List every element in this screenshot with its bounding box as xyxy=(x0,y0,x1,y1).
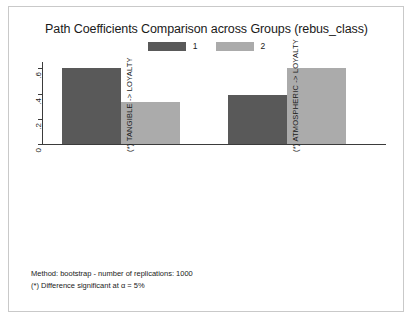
plot-area: 0.2.4.6 xyxy=(42,62,386,144)
chart-figure: Path Coefficients Comparison across Grou… xyxy=(0,0,413,319)
y-tick-label-0: 0 xyxy=(35,148,43,152)
legend-entry-2: 2 xyxy=(216,42,266,51)
y-tick-mark-1 xyxy=(38,119,42,120)
x-axis-label-group-2: (*) ATMOSPHERIC -> LOYALTY xyxy=(291,39,300,152)
y-tick-mark-2 xyxy=(38,94,42,95)
x-axis-line xyxy=(42,144,386,145)
x-axis-label-group-1: (*) TANGIBLE -> LOYALTY xyxy=(125,57,134,152)
footer-significance-line: (*) Difference significant at α = 5% xyxy=(31,280,193,292)
legend-entry-1: 1 xyxy=(148,42,198,51)
y-tick-label-3: .6 xyxy=(35,72,43,79)
legend-swatch-group-2 xyxy=(216,42,254,51)
chart-title: Path Coefficients Comparison across Grou… xyxy=(0,22,413,36)
chart-legend: 1 2 xyxy=(0,42,413,51)
bar-group-1-series-1 xyxy=(62,68,121,144)
legend-label-group-1: 1 xyxy=(193,42,198,51)
y-tick-mark-0 xyxy=(38,144,42,145)
y-tick-label-1: .2 xyxy=(35,123,43,130)
y-tick-label-2: .4 xyxy=(35,98,43,105)
y-tick-mark-3 xyxy=(38,68,42,69)
legend-label-group-2: 2 xyxy=(261,42,266,51)
legend-swatch-group-1 xyxy=(148,42,186,51)
footer-notes: Method: bootstrap - number of replicatio… xyxy=(31,268,193,293)
bar-group-2-series-1 xyxy=(228,95,287,144)
footer-method-line: Method: bootstrap - number of replicatio… xyxy=(31,268,193,280)
figure-border xyxy=(8,6,404,312)
